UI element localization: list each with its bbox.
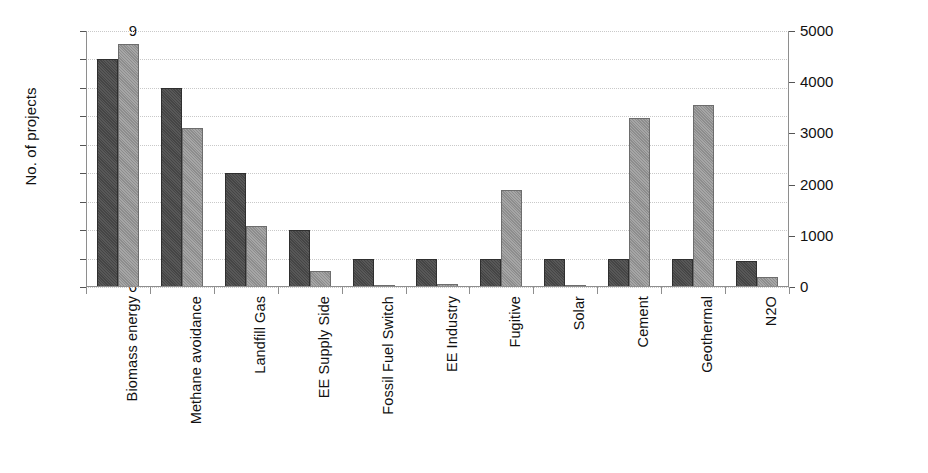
x-tick-mark — [150, 287, 151, 294]
x-tick-mark — [214, 287, 215, 294]
x-axis-label: Fugitive — [507, 296, 523, 348]
x-axis-label: N2O — [763, 296, 779, 326]
x-axis-label: Solar — [571, 296, 587, 330]
x-tick-mark — [342, 287, 343, 294]
plot-frame — [86, 31, 789, 287]
x-tick-mark — [789, 287, 790, 294]
right-tick-mark — [789, 185, 795, 186]
x-tick-mark — [86, 287, 87, 294]
right-tick-label: 5000 — [800, 23, 860, 38]
gridline — [86, 287, 789, 288]
x-axis-label: Fossil Fuel Switch — [380, 296, 396, 415]
x-axis-label: Geothermal — [699, 296, 715, 373]
right-tick-mark — [789, 133, 795, 134]
plot-area — [86, 31, 789, 287]
right-tick-label: 2000 — [800, 177, 860, 192]
right-tick-mark — [789, 236, 795, 237]
x-tick-mark — [597, 287, 598, 294]
right-tick-label: 0 — [800, 279, 860, 294]
right-tick-mark — [789, 31, 795, 32]
x-axis-label: Methane avoidance — [188, 296, 204, 424]
right-tick-mark — [789, 82, 795, 83]
x-tick-mark — [278, 287, 279, 294]
x-axis-label: Landfill Gas — [252, 296, 268, 374]
right-tick-label: 3000 — [800, 125, 860, 140]
x-axis-label: Biomass energy — [124, 296, 140, 401]
x-tick-mark — [725, 287, 726, 294]
x-tick-mark — [661, 287, 662, 294]
right-tick-label: 1000 — [800, 228, 860, 243]
bar-chart: No. of projects Expected CERs 0123456789… — [0, 0, 928, 473]
x-tick-mark — [406, 287, 407, 294]
x-axis-label: Cement — [635, 296, 651, 347]
x-tick-mark — [469, 287, 470, 294]
left-axis-title: No. of projects — [22, 27, 39, 247]
x-tick-mark — [533, 287, 534, 294]
x-axis-label: EE Supply Side — [316, 296, 332, 398]
x-axis-label: EE Industry — [444, 296, 460, 372]
right-tick-label: 4000 — [800, 74, 860, 89]
